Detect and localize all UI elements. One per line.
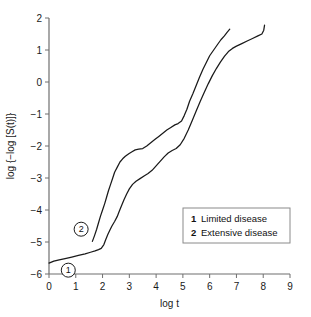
- y-tick-label: 1: [36, 45, 42, 56]
- x-tick-label: 0: [46, 281, 52, 292]
- x-tick-label: 1: [73, 281, 79, 292]
- chart-plot-area: 210−1−2−3−4−5−6 0123456789 12 1Limited d…: [0, 0, 311, 317]
- marker-label-2: 2: [79, 224, 84, 234]
- legend-label-2: Extensive disease: [201, 227, 278, 238]
- y-axis: 210−1−2−3−4−5−6: [31, 13, 49, 280]
- y-axis-title: log {−log [S(t)]}: [5, 112, 16, 179]
- marker-label-1: 1: [66, 265, 71, 275]
- legend-key-1: 1: [191, 213, 197, 224]
- x-tick-label: 8: [260, 281, 266, 292]
- y-tick-label: −6: [31, 269, 43, 280]
- series-markers: 12: [61, 222, 88, 277]
- x-tick-label: 7: [234, 281, 240, 292]
- chart-container: 210−1−2−3−4−5−6 0123456789 12 1Limited d…: [0, 0, 311, 317]
- x-tick-label: 6: [207, 281, 213, 292]
- y-tick-label: −1: [31, 109, 43, 120]
- x-tick-label: 9: [287, 281, 293, 292]
- y-tick-label: −2: [31, 141, 43, 152]
- legend-label-1: Limited disease: [201, 213, 267, 224]
- x-tick-label: 4: [153, 281, 159, 292]
- y-tick-label: −4: [31, 205, 43, 216]
- x-tick-label: 5: [180, 281, 186, 292]
- x-tick-label: 3: [127, 281, 133, 292]
- y-tick-label: 2: [36, 13, 42, 24]
- x-axis: 0123456789: [46, 274, 293, 292]
- x-tick-label: 2: [100, 281, 106, 292]
- y-tick-label: −3: [31, 173, 43, 184]
- x-axis-title: log t: [160, 298, 179, 309]
- legend-key-2: 2: [191, 227, 196, 238]
- y-tick-label: 0: [36, 77, 42, 88]
- legend: 1Limited disease2Extensive disease: [183, 208, 290, 243]
- y-tick-label: −5: [31, 237, 43, 248]
